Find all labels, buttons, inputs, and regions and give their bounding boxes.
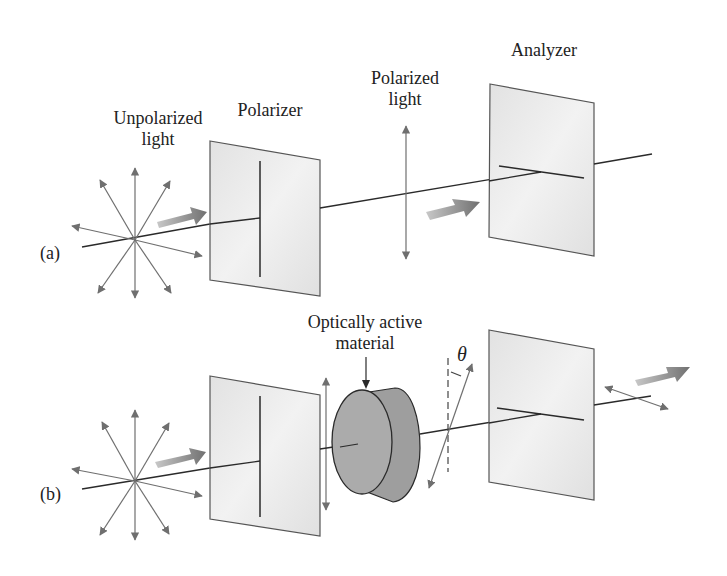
optically-active-material-cylinder (332, 388, 420, 502)
unpolarized-light-icon (72, 410, 202, 540)
propagation-arrow-icon (426, 199, 480, 220)
unpolarized-label-line2: light (98, 129, 218, 150)
polarized-label-line2: light (355, 89, 455, 110)
beam-line (82, 468, 210, 489)
theta-angle-label: θ (452, 344, 472, 365)
analyzer-label: Analyzer (494, 40, 594, 61)
panel-b (72, 330, 690, 540)
propagation-arrow-icon (635, 367, 690, 386)
polarizer-label: Polarizer (220, 100, 320, 121)
beam-line (82, 224, 210, 247)
unpolarized-light-icon (72, 168, 202, 298)
polarized-light-label: Polarized light (355, 68, 455, 110)
optically-active-material-label: Optically active material (290, 312, 440, 354)
polarizer-plate (210, 376, 320, 536)
pointer-arrowhead-icon (362, 380, 370, 389)
propagation-arrow-icon (155, 448, 206, 468)
analyzer-plate (489, 84, 594, 256)
panel-b-tag: (b) (40, 484, 80, 505)
propagation-arrow-icon (157, 207, 207, 228)
beam-line (594, 154, 652, 164)
material-label-line1: Optically active (290, 312, 440, 333)
panel-a-tag: (a) (40, 243, 80, 264)
polarization-diagram: Unpolarized light Polarizer Polarized li… (0, 0, 727, 576)
angle-arc (451, 372, 461, 376)
unpolarized-label-line1: Unpolarized (98, 108, 218, 129)
polarizer-plate (210, 141, 320, 296)
unpolarized-light-label: Unpolarized light (98, 108, 218, 150)
polarized-label-line1: Polarized (355, 68, 455, 89)
output-polarization-icon (605, 387, 668, 409)
analyzer-plate (489, 330, 594, 500)
material-label-line2: material (290, 333, 440, 354)
